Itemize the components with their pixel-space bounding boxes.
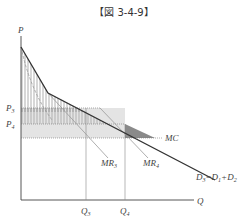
p3-label: P3 [5,103,15,114]
economics-diagram: P Q P3 P4 Q3 Q4 MC MR3 MR4 D3=D1+D2 [0,0,248,218]
mr4-label: MR4 [142,158,159,169]
mc-label: MC [164,133,179,143]
mr3-label: MR3 [100,158,117,169]
demand-label: D3=D1+D2 [195,172,237,183]
q3-label: Q3 [81,206,91,217]
y-axis-label: P [17,25,24,35]
p4-label: P4 [5,119,15,130]
x-axis-label: Q [197,196,204,206]
q4-label: Q4 [120,206,130,217]
